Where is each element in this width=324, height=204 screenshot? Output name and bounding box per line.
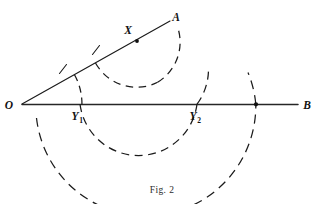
arc-through-y1-y2 <box>80 104 197 155</box>
arc-outer-large-upper <box>248 73 256 105</box>
label-point-y2-subscript: 2 <box>197 116 201 125</box>
point-dot-x <box>135 39 139 43</box>
arc-outer-large <box>37 104 256 204</box>
label-point-a: A <box>171 11 180 23</box>
rays-group <box>22 21 298 105</box>
labels-group: O A B X Y 1 Y 2 Fig. 2 <box>5 11 311 195</box>
tick-on-ray-oa-inner <box>60 65 67 74</box>
figure-container: O A B X Y 1 Y 2 Fig. 2 <box>0 0 324 204</box>
arc-through-y2-upper <box>197 70 209 104</box>
tick-marks-group <box>60 46 100 74</box>
figure-caption: Fig. 2 <box>150 185 175 195</box>
arc-centered-at-x-lower <box>96 63 158 87</box>
label-point-x: X <box>123 24 132 36</box>
ray-oa-line <box>22 21 170 104</box>
label-point-b: B <box>302 99 311 111</box>
label-point-y1-subscript: 1 <box>79 116 83 125</box>
point-dots-group <box>135 39 258 106</box>
tick-on-ray-oa-outer <box>93 46 100 55</box>
compass-arcs-group <box>37 28 256 204</box>
arc-centered-at-o <box>75 75 82 106</box>
point-dot-outer-intersection <box>254 102 258 106</box>
arc-centered-at-x-right <box>158 28 180 82</box>
label-point-o: O <box>5 99 13 111</box>
geometry-canvas: O A B X Y 1 Y 2 Fig. 2 <box>0 0 324 204</box>
